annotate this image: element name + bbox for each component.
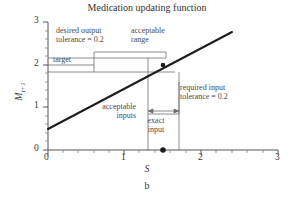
figure-caption: b bbox=[0, 180, 294, 191]
y-tick-label-0: 0 bbox=[34, 143, 39, 154]
y-axis-label: Mt+1 bbox=[13, 65, 28, 117]
figure-container: Medication updating function bbox=[0, 0, 294, 198]
x-tick-label-3: 3 bbox=[275, 152, 280, 163]
annotation-acceptable-range-line2: range bbox=[131, 36, 165, 45]
x-tick-label-0: 0 bbox=[44, 152, 49, 163]
y-tick-label-1: 1 bbox=[34, 100, 39, 111]
annotation-acceptable-inputs-line2: inputs bbox=[90, 112, 136, 121]
annotation-exact-input: exact input bbox=[141, 117, 171, 135]
annotation-required-input-tolerance: required input tolerance = 0.2 bbox=[180, 84, 228, 102]
x-axis-label: S bbox=[0, 163, 294, 174]
medication-updating-line bbox=[48, 32, 232, 129]
y-tick-label-3: 3 bbox=[34, 15, 39, 26]
annotation-desired-output-tolerance: desired output tolerance = 0.2 bbox=[56, 27, 104, 45]
exact-input-arrow bbox=[148, 109, 179, 113]
annotation-desired-output-line2: tolerance = 0.2 bbox=[56, 36, 104, 45]
annotation-target: target bbox=[53, 56, 71, 65]
operating-point-marker bbox=[161, 63, 166, 68]
x-tick-label-1: 1 bbox=[121, 152, 126, 163]
y-axis-major-ticks bbox=[43, 22, 48, 150]
x-tick-label-2: 2 bbox=[198, 152, 203, 163]
y-axis-label-subscript: t+1 bbox=[19, 82, 27, 92]
annotation-acceptable-inputs: acceptable inputs bbox=[90, 103, 136, 121]
annotation-acceptable-range: acceptable range bbox=[131, 27, 165, 45]
y-axis-label-main: M bbox=[13, 92, 24, 100]
exact-input-axis-marker bbox=[160, 147, 166, 153]
y-tick-label-2: 2 bbox=[34, 58, 39, 69]
exact-input-arrow-head-left bbox=[148, 109, 153, 113]
annotation-required-input-line2: tolerance = 0.2 bbox=[180, 93, 228, 102]
exact-input-arrow-head-right bbox=[174, 109, 179, 113]
construction-lines bbox=[48, 52, 179, 150]
annotation-exact-input-line2: input bbox=[141, 126, 171, 135]
